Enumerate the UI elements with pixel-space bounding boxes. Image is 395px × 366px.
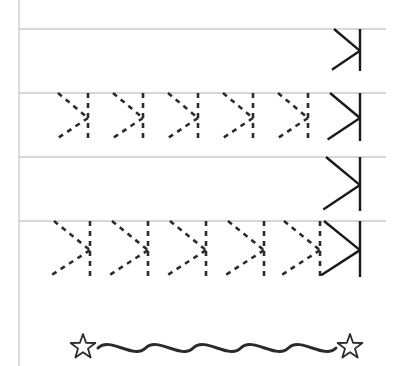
- letter-stroke: [168, 93, 198, 118]
- practice-row-4: [51, 221, 360, 277]
- letter-stroke: [112, 221, 148, 250]
- dashed-letter: [281, 221, 320, 277]
- dashed-letter: [166, 93, 198, 141]
- dashed-letter: [221, 93, 253, 141]
- wavy-divider-with-stars: [71, 334, 363, 358]
- letter-stroke: [326, 157, 360, 185]
- letter-stroke: [170, 221, 206, 250]
- letter-stroke: [328, 118, 360, 140]
- letter-stroke: [278, 93, 308, 118]
- letter-stroke: [284, 221, 320, 250]
- letter-stroke: [225, 250, 264, 275]
- letter-stroke: [51, 250, 90, 275]
- practice-row-1: [332, 29, 360, 71]
- letter-stroke: [111, 118, 143, 140]
- model-letter: [328, 93, 360, 141]
- practice-row-3: [323, 157, 360, 211]
- model-letter: [323, 157, 360, 211]
- model-letter: [321, 221, 360, 277]
- letter-stroke: [167, 250, 206, 275]
- letter-stroke: [54, 221, 90, 250]
- letter-stroke: [113, 93, 143, 118]
- letter-stroke: [109, 250, 148, 275]
- wavy-line: [98, 345, 336, 352]
- letter-stroke: [324, 221, 360, 250]
- dashed-letter: [111, 93, 143, 141]
- letter-stroke: [321, 250, 360, 275]
- dashed-letter: [51, 221, 90, 277]
- handwriting-worksheet: [0, 0, 395, 366]
- letter-stroke: [228, 221, 264, 250]
- dashed-letter: [167, 221, 206, 277]
- model-letter: [332, 29, 360, 71]
- letter-stroke: [330, 93, 360, 118]
- practice-row-2: [56, 93, 360, 141]
- star-right-icon: [338, 334, 363, 358]
- letter-stroke: [166, 118, 198, 140]
- letter-stroke: [56, 118, 88, 140]
- dashed-letter: [225, 221, 264, 277]
- letter-stroke: [221, 118, 253, 140]
- letter-stroke: [281, 250, 320, 275]
- letter-stroke: [332, 51, 360, 70]
- letter-stroke: [223, 93, 253, 118]
- star-left-icon: [71, 334, 96, 358]
- dashed-letter: [276, 93, 308, 141]
- letter-stroke: [58, 93, 88, 118]
- letter-stroke: [276, 118, 308, 140]
- worksheet-canvas: [0, 0, 395, 366]
- dashed-letter: [56, 93, 88, 141]
- letter-stroke: [334, 29, 360, 51]
- letter-stroke: [323, 185, 360, 209]
- dashed-letter: [109, 221, 148, 277]
